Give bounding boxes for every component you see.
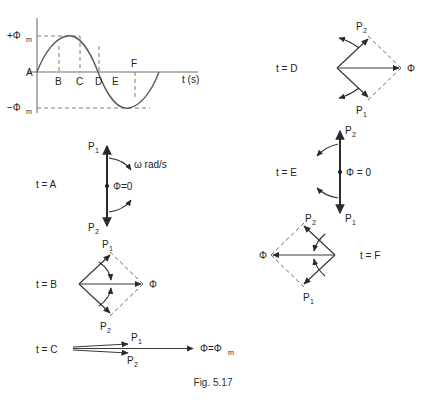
phasor-diagram-t-F: t = F P 2 P 1 Φ bbox=[259, 213, 380, 305]
parallelogram-dash-lower-D bbox=[368, 68, 401, 100]
rotation-arrow-lower-D bbox=[339, 88, 359, 98]
phasor-diagram-t-B: t = B P 1 P 2 Φ bbox=[36, 239, 157, 334]
phasor-P1-sub-E: 1 bbox=[352, 219, 356, 226]
phasor-time-label-E: t = E bbox=[276, 167, 297, 178]
phasor-P2-label-C: P bbox=[127, 355, 134, 366]
phasor-P2-label-E: P bbox=[345, 125, 352, 136]
phasor-P1-label-F: P bbox=[303, 292, 310, 303]
rotation-arrow-upper-D bbox=[339, 38, 359, 48]
phasor-diagram-t-C: t = C P 1 P 2 Φ=Φ m bbox=[36, 332, 234, 368]
parallelogram-dash-upper-B bbox=[110, 252, 143, 284]
phasor-diagram-t-A: t = A P 1 P 2 Φ=0 ω rad/s bbox=[36, 141, 167, 235]
rotation-arrow-upper-B bbox=[99, 262, 111, 280]
y-label-positive: +Φ bbox=[7, 30, 21, 41]
x-axis-label: t (s) bbox=[182, 74, 199, 85]
parallelogram-dash-upper-D bbox=[368, 36, 401, 68]
phasor-P2-label-B: P bbox=[100, 321, 107, 332]
time-marker-label-E: E bbox=[112, 76, 119, 87]
phasor-P1-sub-A: 1 bbox=[95, 147, 99, 154]
waveform-graph: +Φ m −Φ m t (s) A B C D E F bbox=[7, 18, 199, 115]
phasor-P1-label-E: P bbox=[345, 213, 352, 224]
phasor-P2-sub-B: 2 bbox=[107, 327, 111, 334]
time-marker-label-D: D bbox=[95, 76, 102, 87]
phasor-P1-sub-D: 1 bbox=[363, 111, 367, 118]
phasor-P2-sub-C: 2 bbox=[134, 361, 138, 368]
figure-caption: Fig. 5.17 bbox=[194, 377, 233, 388]
rotation-arrow-upper-E bbox=[317, 144, 338, 156]
phasor-P2-label-A: P bbox=[88, 222, 95, 233]
phasor-P1-label-C: P bbox=[131, 332, 138, 343]
phasor-P1-sub-B: 1 bbox=[109, 245, 113, 252]
phasor-P1-sub-C: 1 bbox=[138, 338, 142, 345]
y-label-negative: −Φ bbox=[7, 102, 21, 113]
phasor-flux-sub-C: m bbox=[228, 349, 234, 356]
figure-page: +Φ m −Φ m t (s) A B C D E F t = A bbox=[0, 0, 427, 408]
phasor-time-label-F: t = F bbox=[360, 250, 380, 261]
parallelogram-dash-lower-B bbox=[110, 284, 143, 316]
phasor-P1-vector-C bbox=[73, 344, 128, 347]
phasor-time-label-C: t = C bbox=[36, 344, 57, 355]
figure-canvas: +Φ m −Φ m t (s) A B C D E F t = A bbox=[0, 0, 427, 408]
phasor-flux-label-A: Φ=0 bbox=[113, 181, 133, 192]
phasor-P2-vector-B bbox=[79, 284, 110, 313]
time-marker-label-F: F bbox=[131, 58, 137, 69]
rotation-arrow-lower-B bbox=[99, 288, 111, 306]
phasor-time-label-D: t = D bbox=[276, 63, 297, 74]
time-marker-label-A: A bbox=[26, 67, 33, 78]
phasor-P1-vector-B bbox=[79, 255, 110, 284]
phasor-flux-label-B: Φ bbox=[149, 279, 157, 290]
resultant-point-A bbox=[105, 184, 109, 188]
phasor-P1-label-A: P bbox=[88, 141, 95, 152]
parallelogram-dash-lower-F bbox=[271, 255, 304, 287]
phasor-flux-label-D: Φ bbox=[407, 63, 415, 74]
phasor-P2-sub-E: 2 bbox=[352, 131, 356, 138]
omega-label-A: ω rad/s bbox=[134, 159, 167, 170]
phasor-P1-label-B: P bbox=[102, 239, 109, 250]
phasor-P2-label-F: P bbox=[305, 213, 312, 224]
resultant-point-E bbox=[338, 170, 342, 174]
rotation-arrow-upper-A bbox=[109, 158, 131, 170]
phasor-flux-label-C: Φ=Φ bbox=[200, 343, 222, 354]
phasor-P2-vector-C bbox=[73, 350, 128, 353]
phasor-P2-sub-D: 2 bbox=[363, 27, 367, 34]
parallelogram-dash-upper-F bbox=[271, 223, 304, 255]
phasor-flux-label-E: Φ = 0 bbox=[346, 167, 371, 178]
phasor-P2-label-D: P bbox=[356, 21, 363, 32]
phasor-time-label-B: t = B bbox=[36, 279, 57, 290]
time-marker-label-B: B bbox=[55, 76, 62, 87]
phasor-P2-sub-F: 2 bbox=[312, 219, 316, 226]
phasor-P1-sub-F: 1 bbox=[310, 298, 314, 305]
phasor-time-label-A: t = A bbox=[36, 179, 57, 190]
phasor-diagram-t-D: t = D P 2 P 1 Φ bbox=[276, 21, 415, 118]
phasor-flux-label-F: Φ bbox=[259, 250, 267, 261]
rotation-arrow-lower-A bbox=[109, 200, 131, 212]
phasor-P1-label-D: P bbox=[356, 105, 363, 116]
time-marker-label-C: C bbox=[76, 76, 83, 87]
y-label-negative-sub: m bbox=[26, 108, 32, 115]
rotation-arrow-lower-E bbox=[317, 188, 338, 198]
phasor-P2-sub-A: 2 bbox=[95, 228, 99, 235]
phasor-diagram-t-E: t = E P 2 P 1 Φ = 0 bbox=[276, 125, 371, 226]
y-label-positive-sub: m bbox=[26, 36, 32, 43]
